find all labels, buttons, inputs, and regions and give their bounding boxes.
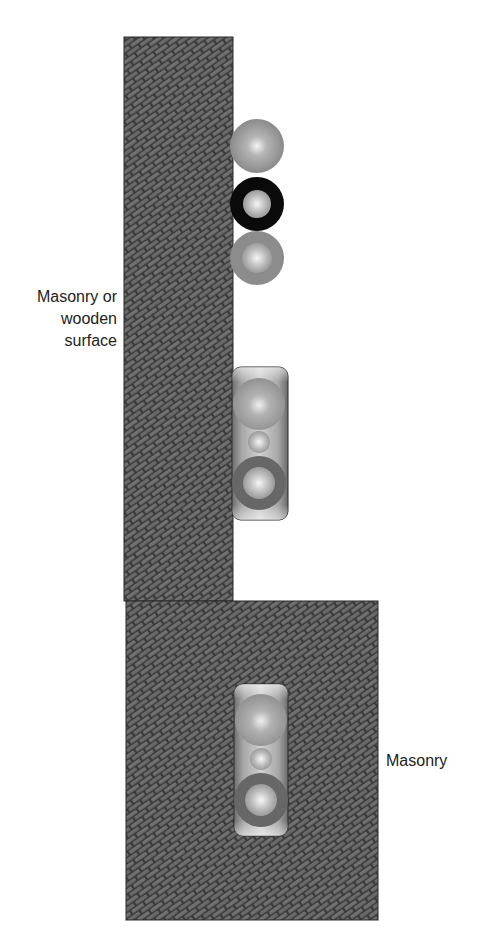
diagram-canvas: Masonry or wooden surface Masonry bbox=[0, 0, 483, 944]
unit-lower-large-circle-icon bbox=[235, 694, 287, 746]
unit-lower-small-circle-icon bbox=[250, 748, 272, 770]
standalone-gray-circle-icon bbox=[230, 119, 284, 173]
upper-wall-label-line-2: wooden bbox=[7, 308, 117, 330]
unit-upper-large-circle-icon bbox=[233, 378, 285, 430]
unit-upper-small-circle-icon bbox=[248, 431, 270, 453]
upper-wall-label: Masonry or wooden surface bbox=[7, 286, 117, 352]
diagram-graphics bbox=[0, 0, 483, 944]
upper-wall-label-line-1: Masonry or bbox=[7, 286, 117, 308]
upper-masonry-wall bbox=[124, 37, 233, 601]
upper-wall-label-line-3: surface bbox=[7, 330, 117, 352]
standalone-black-ring-icon bbox=[230, 177, 284, 231]
mounted-unit-lower bbox=[234, 684, 288, 836]
mounted-unit-upper bbox=[232, 367, 288, 520]
standalone-gray-ring-icon bbox=[230, 231, 284, 285]
lower-wall-label: Masonry bbox=[386, 750, 447, 772]
